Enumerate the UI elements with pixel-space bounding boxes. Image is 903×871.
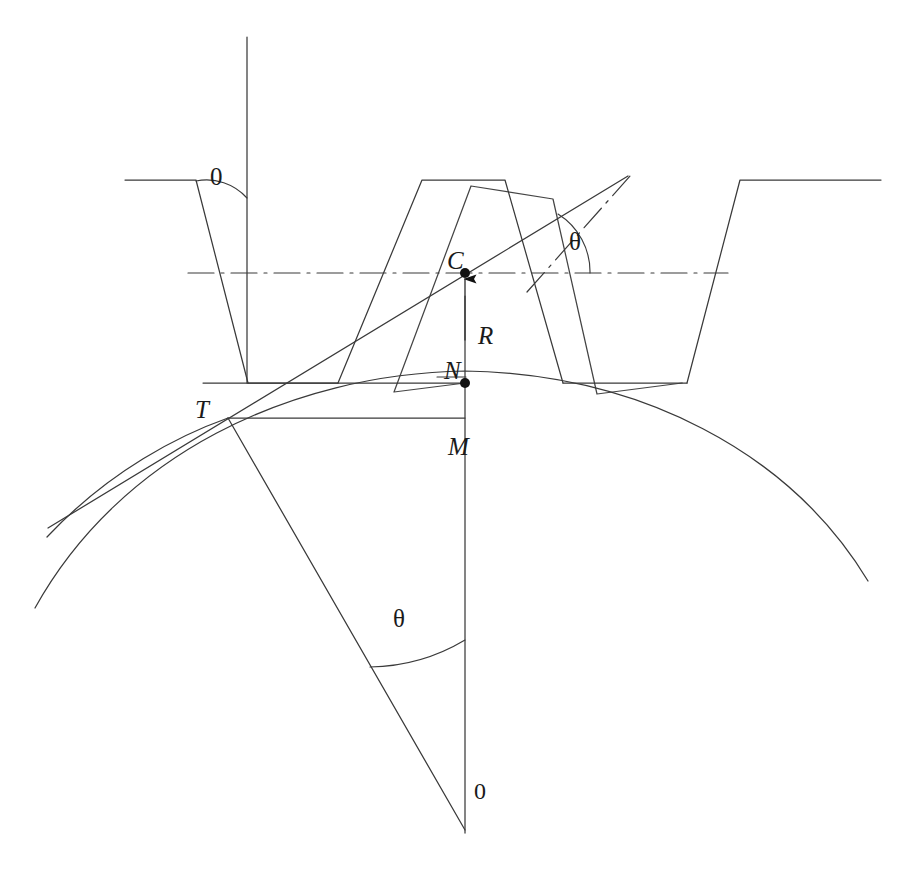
theta-label-bottom: θ <box>393 605 405 633</box>
dimension-label-r: R <box>478 322 493 350</box>
rotated-tooth-outline <box>394 186 682 394</box>
center-label-zero: 0 <box>474 778 486 805</box>
diagram-canvas: 0 θ C R N M T θ 0 <box>0 0 903 871</box>
pitch-circle-arc <box>35 371 868 608</box>
radius-line-o-to-t <box>228 418 465 830</box>
point-label-c: C <box>447 247 464 275</box>
rack-left-tooth <box>125 180 248 383</box>
rack-middle-tooth <box>338 180 563 383</box>
dimension-label-m: M <box>448 433 469 461</box>
theta-arc-bottom <box>370 640 465 667</box>
angle-label-top-left: 0 <box>210 163 223 191</box>
point-label-n: N <box>444 357 461 385</box>
line-of-action <box>48 176 628 528</box>
theta-label-top-right: θ <box>569 228 581 256</box>
point-label-t: T <box>195 396 209 424</box>
rack-right-tooth <box>687 180 881 383</box>
point-n-dot <box>460 378 470 388</box>
